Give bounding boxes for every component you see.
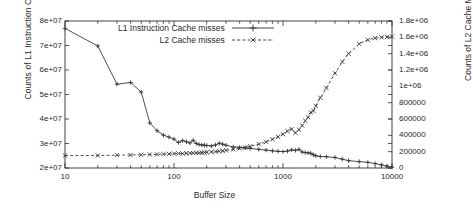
- series-line-l2: [65, 37, 392, 156]
- y-tick-label-left-4: 6e+07: [18, 65, 62, 74]
- y-tick-label-left-3: 5e+07: [18, 90, 62, 99]
- y-tick-label-right-9: 1.8e+06: [399, 16, 445, 25]
- y-tick-label-left-5: 7e+07: [18, 41, 62, 50]
- y-tick-label-left-6: 8e+07: [18, 16, 62, 25]
- y-tick-label-right-0: 0: [399, 163, 445, 172]
- y-tick-label-right-5: 1e+06: [399, 81, 445, 90]
- y-tick-label-left-1: 3e+07: [18, 139, 62, 148]
- y-tick-label-left-2: 4e+07: [18, 114, 62, 123]
- y-tick-label-right-1: 200000: [399, 147, 445, 156]
- y-tick-label-right-3: 600000: [399, 114, 445, 123]
- y-tick-label-left-0: 2e+07: [18, 163, 62, 172]
- y-tick-label-right-6: 1.2e+06: [399, 65, 445, 74]
- y-tick-label-right-2: 400000: [399, 130, 445, 139]
- x-tick-label-0: 10: [43, 172, 87, 181]
- x-tick-label-3: 10000: [370, 172, 414, 181]
- x-tick-label-2: 1000: [261, 172, 305, 181]
- y-tick-label-right-7: 1.4e+06: [399, 49, 445, 58]
- x-tick-label-1: 100: [152, 172, 196, 181]
- y-tick-label-right-8: 1.6e+06: [399, 32, 445, 41]
- y-tick-label-right-4: 800000: [399, 98, 445, 107]
- series-line-l1: [65, 28, 392, 167]
